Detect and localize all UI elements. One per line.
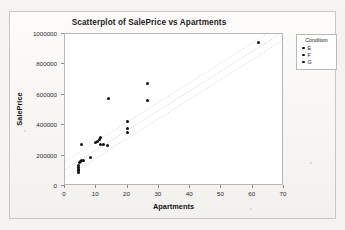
legend-item-label: G [308,59,312,66]
plot-inner [65,34,282,184]
data-point [89,156,92,159]
x-axis-label: Apartments [64,202,283,211]
legend: Condition EFG [296,34,337,70]
scan-speck [24,130,26,132]
y-tick-label: 1000000 [33,30,57,37]
y-tick-label: 600000 [36,90,57,97]
legend-item-e: E [300,45,333,52]
confidence-band [65,34,282,184]
data-point [102,143,105,146]
y-tick-label: 200000 [36,151,57,158]
scan-speck [310,162,312,164]
x-tick-label: 50 [217,190,224,197]
x-tick-label: 0 [62,190,65,197]
legend-rows: EFG [300,45,333,66]
legend-marker-icon [302,47,305,50]
data-point [106,144,109,147]
y-tick-label: 800000 [36,60,57,67]
x-tick-mark [95,185,96,188]
y-tick-mark [61,124,64,125]
x-tick-label: 20 [123,190,130,197]
data-point [99,136,102,139]
fit-line [65,34,282,170]
x-tick-label: 30 [154,190,161,197]
legend-item-label: E [308,45,312,52]
fit-line [65,41,282,178]
legend-item-g: G [300,59,333,66]
x-tick-mark [252,185,253,188]
legend-title: Condition [300,37,333,43]
plot-area [64,33,283,185]
x-tick-label: 10 [92,190,99,197]
x-tick-label: 70 [280,190,287,197]
y-tick-mark [61,33,64,34]
data-point [82,159,85,162]
y-tick-mark [61,155,64,156]
x-tick-mark [127,185,128,188]
scan-top-strip [0,0,345,9]
x-tick-mark [64,185,65,188]
x-tick-mark [189,185,190,188]
y-tick-mark [61,94,64,95]
x-tick-label: 40 [186,190,193,197]
x-tick-mark [158,185,159,188]
chart-title: Scatterplot of SalePrice vs Apartments [10,18,288,27]
y-axis-label: SalePrice [15,92,24,125]
legend-item-f: F [300,52,333,59]
legend-marker-icon [302,61,305,64]
legend-item-label: F [308,52,311,59]
y-tick-label: 400000 [36,121,57,128]
data-point [80,143,83,146]
y-tick-mark [61,63,64,64]
legend-marker-icon [302,54,305,57]
screenshot-page: Scatterplot of SalePrice vs Apartments 0… [0,0,345,230]
chart-figure-card: Scatterplot of SalePrice vs Apartments 0… [9,11,336,219]
y-tick-label: 0 [54,182,57,189]
x-tick-mark [220,185,221,188]
x-tick-mark [283,185,284,188]
x-tick-label: 60 [248,190,255,197]
